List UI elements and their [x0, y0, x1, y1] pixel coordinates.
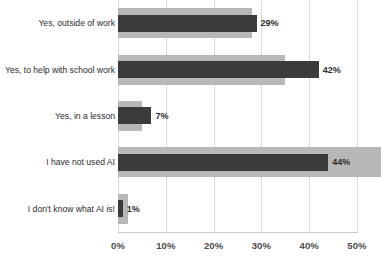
bar-value-label: 29% [261, 19, 279, 28]
bar-value [118, 154, 328, 171]
bar-value [118, 61, 319, 78]
bar-row: I don't know what AI is!1% [0, 186, 379, 232]
bar-row: Yes, in a lesson7% [0, 93, 379, 139]
bar-row: Yes, outside of work29% [0, 0, 379, 46]
bar-value-label: 44% [332, 158, 350, 167]
x-tick-label: 50% [335, 240, 379, 251]
bar-value [118, 200, 123, 217]
bar-value [118, 107, 151, 124]
x-tick-label: 10% [144, 240, 188, 251]
bar-row: I have not used AI44% [0, 139, 379, 185]
category-label: Yes, in a lesson [0, 112, 115, 121]
x-tick-label: 30% [239, 240, 283, 251]
bar-row: Yes, to help with school work42% [0, 46, 379, 92]
x-tick-label: 40% [287, 240, 331, 251]
bar-value [118, 15, 257, 32]
x-tick-label: 0% [96, 240, 140, 251]
x-axis-line [118, 232, 358, 233]
category-label: I have not used AI [0, 158, 115, 167]
x-tick-label: 20% [192, 240, 236, 251]
bar-value-label: 42% [323, 66, 341, 75]
category-label: Yes, outside of work [0, 19, 115, 28]
bar-value-label: 7% [155, 112, 168, 121]
category-label: Yes, to help with school work [0, 66, 115, 75]
bar-value-label: 1% [127, 205, 140, 214]
category-label: I don't know what AI is! [0, 205, 115, 214]
